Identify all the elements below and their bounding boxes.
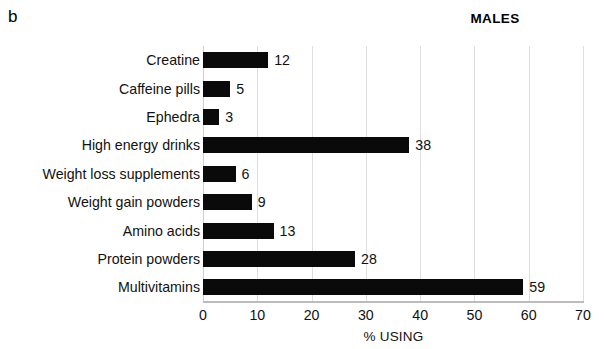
- category-label: Protein powders: [97, 252, 200, 266]
- bar-value-label: 5: [236, 81, 244, 95]
- bar-value-label: 6: [242, 167, 250, 181]
- x-tick-label: 50: [454, 308, 494, 322]
- x-axis-title: % USING: [203, 329, 584, 344]
- bar-row: Protein powders28: [0, 245, 605, 273]
- bar-row: Multivitamins59: [0, 273, 605, 301]
- bar-row: Weight gain powders9: [0, 188, 605, 216]
- bar: [203, 279, 523, 295]
- bar-row: Caffeine pills5: [0, 74, 605, 102]
- bar-row: Creatine12: [0, 46, 605, 74]
- bar-value-label: 3: [225, 110, 233, 124]
- bar: [203, 52, 268, 68]
- bar: [203, 251, 355, 267]
- bar: [203, 223, 274, 239]
- category-label: High energy drinks: [82, 138, 200, 152]
- bar-chart: Creatine12Caffeine pills5Ephedra3High en…: [0, 0, 605, 349]
- bar: [203, 166, 236, 182]
- bar-row: Weight loss supplements6: [0, 160, 605, 188]
- category-label: Weight gain powders: [68, 195, 200, 209]
- x-tick-label: 60: [509, 308, 549, 322]
- bar: [203, 137, 409, 153]
- bar-value-label: 28: [361, 252, 377, 266]
- bar-value-label: 12: [274, 53, 290, 67]
- bar: [203, 109, 219, 125]
- bar-value-label: 13: [280, 223, 296, 237]
- x-axis-line: [203, 301, 584, 303]
- x-tick-label: 40: [400, 308, 440, 322]
- category-label: Ephedra: [146, 110, 200, 124]
- x-tick-label: 10: [237, 308, 277, 322]
- category-label: Weight loss supplements: [43, 167, 200, 181]
- bar: [203, 81, 230, 97]
- x-tick-label: 0: [183, 308, 223, 322]
- category-label: Multivitamins: [118, 280, 200, 294]
- bar-value-label: 59: [529, 280, 545, 294]
- bar-row: Amino acids13: [0, 216, 605, 244]
- category-label: Amino acids: [123, 223, 200, 237]
- x-tick-label: 20: [292, 308, 332, 322]
- category-label: Creatine: [146, 53, 200, 67]
- x-tick-label: 30: [346, 308, 386, 322]
- x-tick-label: 70: [563, 308, 603, 322]
- bar-value-label: 9: [258, 195, 266, 209]
- bar: [203, 194, 252, 210]
- bar-row: High energy drinks38: [0, 131, 605, 159]
- bar-row: Ephedra3: [0, 103, 605, 131]
- category-label: Caffeine pills: [119, 81, 200, 95]
- bar-value-label: 38: [415, 138, 431, 152]
